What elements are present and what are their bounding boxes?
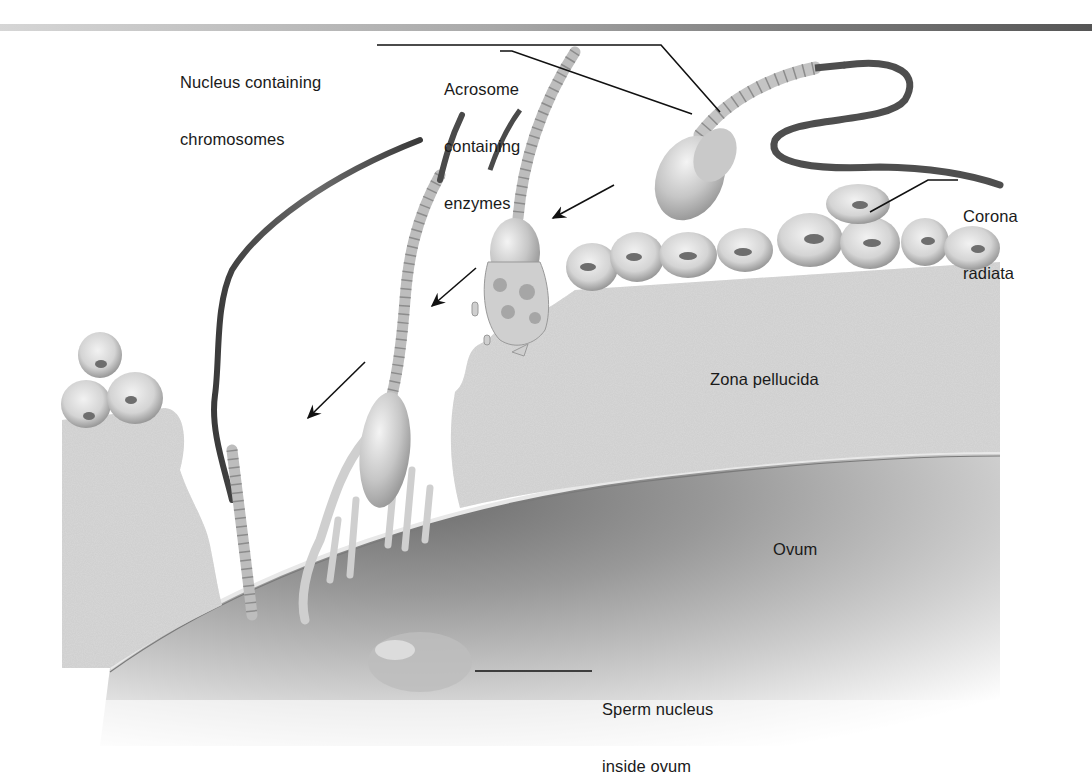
sperm-approaching xyxy=(641,63,1000,231)
label-acrosome-line3: enzymes xyxy=(444,194,520,213)
label-nucleus-line2: chromosomes xyxy=(180,130,321,149)
label-zona-pellucida: Zona pellucida xyxy=(710,370,819,389)
label-nucleus-line1: Nucleus containing xyxy=(180,73,321,92)
label-acrosome-line1: Acrosome xyxy=(444,80,520,99)
label-sperm-nucleus: Sperm nucleus inside ovum xyxy=(602,662,713,776)
label-corona-line2: radiata xyxy=(963,264,1018,283)
label-corona-radiata: Corona radiata xyxy=(963,169,1018,302)
label-nucleus: Nucleus containing chromosomes xyxy=(180,35,321,168)
label-acrosome-line2: containing xyxy=(444,137,520,156)
label-acrosome: Acrosome containing enzymes xyxy=(444,42,520,232)
label-corona-line1: Corona xyxy=(963,207,1018,226)
label-ovum: Ovum xyxy=(773,540,817,559)
label-sperm-nucleus-line2: inside ovum xyxy=(602,757,713,776)
sperm-nucleus-inside-ovum xyxy=(368,632,472,692)
label-sperm-nucleus-line1: Sperm nucleus xyxy=(602,700,713,719)
